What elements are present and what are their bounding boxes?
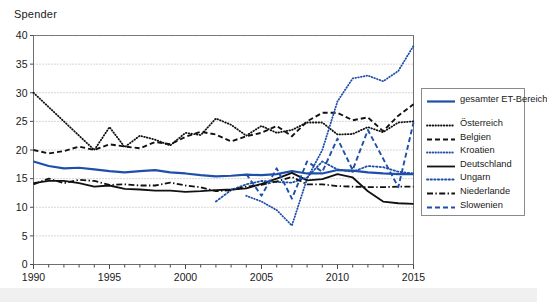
legend-key-icon: [426, 146, 456, 159]
y-axis-tick-label: 40: [16, 29, 28, 41]
legend-item-label: Ungarn: [460, 172, 491, 183]
legend-key-icon: [426, 201, 456, 214]
x-axis-tick-label: 2010: [326, 271, 350, 283]
y-axis-tick-label: 30: [16, 87, 28, 99]
legend-item-label: Österreich: [460, 118, 503, 129]
x-axis-tick-label: 1995: [98, 271, 122, 283]
x-axis-tick-label: 2015: [402, 271, 426, 283]
legend-item-6: Ungarn: [426, 172, 520, 186]
chart-legend: gesamter ET-BereichÖsterreichBelgienKroa…: [421, 88, 525, 216]
legend-key-icon: [426, 160, 456, 173]
legend-item-label: Kroatien: [460, 145, 495, 156]
y-axis-tick-label: 25: [16, 115, 28, 127]
x-axis-tick-label: 2005: [250, 271, 274, 283]
y-axis-tick-label: 10: [16, 201, 28, 213]
legend-item-label: Belgien: [460, 132, 491, 143]
legend-item-5: Deutschland: [426, 159, 520, 173]
y-axis-tick-label: 5: [22, 230, 28, 242]
y-axis-tick-label: 35: [16, 58, 28, 70]
legend-key-icon: [426, 173, 456, 186]
legend-item-1: gesamter ET-Bereich: [426, 94, 520, 118]
legend-key-icon: [426, 187, 456, 200]
legend-item-4: Kroatien: [426, 145, 520, 159]
legend-item-3: Belgien: [426, 132, 520, 146]
legend-item-label: Deutschland: [460, 159, 512, 170]
legend-item-7: Niederlande: [426, 186, 520, 200]
legend-item-8: Slowenien: [426, 200, 520, 214]
legend-key-icon: [426, 119, 456, 132]
x-axis-tick-label: 2000: [174, 271, 198, 283]
legend-key-icon: [426, 95, 456, 108]
y-axis-tick-label: 20: [16, 144, 28, 156]
y-axis-tick-label: 0: [22, 258, 28, 270]
x-axis-tick-label: 1990: [22, 271, 46, 283]
legend-item-label: Niederlande: [460, 186, 510, 197]
legend-item-label: gesamter ET-Bereich: [460, 94, 547, 105]
legend-key-icon: [426, 133, 456, 146]
legend-item-label: Slowenien: [460, 200, 503, 211]
legend-item-2: Österreich: [426, 118, 520, 132]
y-axis-tick-label: 15: [16, 172, 28, 184]
